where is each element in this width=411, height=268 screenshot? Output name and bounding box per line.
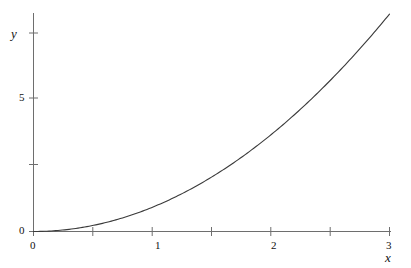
x-axis-label: x: [385, 251, 391, 264]
x-tick-label-2: 2: [271, 240, 277, 251]
x-tick-label-1: 1: [155, 240, 161, 251]
x-tick-label-3: 3: [386, 240, 392, 251]
x-tick-label-0: 0: [30, 240, 36, 251]
y-axis-label: y: [11, 27, 17, 40]
y-tick-label-0: 0: [19, 225, 25, 236]
plot-figure: y x 0 5 0 1 2 3: [0, 0, 411, 268]
data-curve: [34, 14, 390, 231]
chart-canvas: [0, 0, 411, 268]
y-tick-label-5: 5: [19, 92, 25, 103]
